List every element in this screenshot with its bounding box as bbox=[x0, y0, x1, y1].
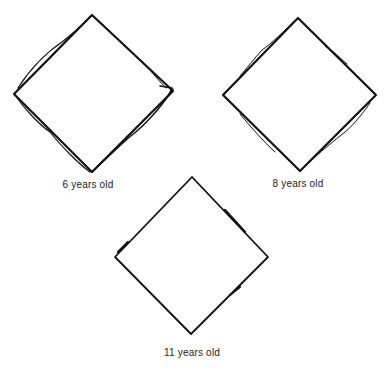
caption-6-years: 6 years old bbox=[62, 179, 113, 190]
caption-8-years: 8 years old bbox=[272, 178, 323, 189]
caption-11-years: 11 years old bbox=[164, 347, 220, 358]
diamond-8-years bbox=[223, 18, 376, 171]
drawings-canvas bbox=[0, 0, 392, 368]
diamond-6-years bbox=[14, 15, 173, 172]
diamond-11-years bbox=[115, 177, 268, 334]
